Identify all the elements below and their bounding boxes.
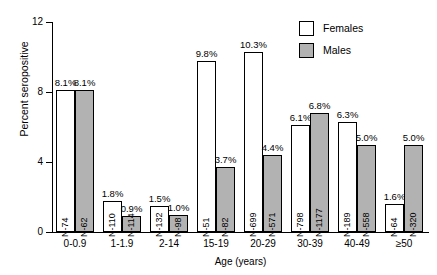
category-label-7: ≥50 (372, 238, 436, 249)
seroprevalence-bar-chart: Percent seropositive Age (years) 04812 8… (0, 0, 437, 275)
y-tick-label: 12 (18, 17, 43, 27)
male-7-n-label: N-320 (409, 212, 418, 237)
legend-label-males: Males (323, 44, 351, 56)
legend-item-females: Females (299, 17, 363, 39)
female-6-n-label: N-189 (343, 212, 352, 237)
female-6-value-label: 6.3% (329, 110, 366, 120)
legend-swatch-males-icon (299, 43, 314, 58)
male-4-value-label: 4.4% (254, 143, 291, 153)
female-1-value-label: 1.8% (94, 189, 131, 199)
female-5-n-label: N-798 (296, 212, 305, 237)
male-4-n-label: N-571 (268, 212, 277, 237)
female-4-bar (244, 52, 263, 232)
male-3-n-label: N-82 (221, 217, 230, 237)
male-2-n-label: N-98 (174, 217, 183, 237)
legend: Females Males (299, 17, 363, 61)
male-1-n-label: N-114 (127, 213, 136, 237)
y-tick-mark (46, 162, 52, 163)
female-1-n-label: N-110 (108, 213, 117, 237)
male-7-value-label: 5.0% (395, 133, 432, 143)
male-0-value-label: 8.1% (66, 78, 103, 88)
female-7-n-label: N-64 (390, 217, 399, 237)
male-5-n-label: N-1177 (315, 208, 324, 237)
male-6-n-label: N-558 (362, 212, 371, 237)
male-0-bar (75, 90, 94, 232)
male-2-value-label: 1.0% (160, 203, 197, 213)
female-3-value-label: 9.8% (188, 49, 225, 59)
y-tick-mark (46, 92, 52, 93)
male-6-value-label: 5.0% (348, 133, 385, 143)
female-4-n-label: N-699 (249, 212, 258, 237)
legend-item-males: Males (299, 39, 363, 61)
y-axis-line (52, 22, 53, 233)
male-3-value-label: 3.7% (207, 155, 244, 165)
y-tick-mark (46, 232, 52, 233)
y-tick-mark (46, 22, 52, 23)
y-tick-label: 4 (18, 157, 43, 167)
female-3-bar (197, 61, 216, 233)
female-0-n-label: N-74 (61, 217, 70, 237)
female-2-n-label: N-132 (155, 212, 164, 237)
legend-label-females: Females (323, 22, 363, 34)
legend-swatch-females-icon (299, 21, 314, 36)
male-0-n-label: N-62 (80, 217, 89, 237)
female-0-bar (56, 90, 75, 232)
female-4-value-label: 10.3% (235, 40, 272, 50)
female-3-n-label: N-51 (202, 217, 211, 237)
y-tick-label: 8 (18, 87, 43, 97)
y-tick-label: 0 (18, 227, 43, 237)
x-axis-title: Age (years) (52, 256, 429, 267)
